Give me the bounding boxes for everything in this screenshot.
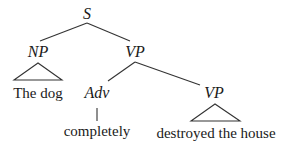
- yield-adv: completely: [64, 123, 131, 139]
- node-np: NP: [27, 43, 49, 60]
- yield-np: The dog: [13, 85, 63, 101]
- yield-vp2: destroyed the house: [156, 125, 275, 141]
- node-vp2: VP: [204, 84, 224, 101]
- edge-s-vp: [87, 23, 130, 41]
- triangle-np: [14, 63, 62, 80]
- syntax-tree: S NP The dog VP Adv completely VP destro…: [0, 0, 283, 146]
- triangle-vp2: [191, 104, 240, 121]
- edge-vp-vp2: [135, 62, 200, 85]
- edge-vp-adv: [108, 62, 135, 81]
- node-vp: VP: [125, 43, 145, 60]
- node-s: S: [83, 5, 91, 22]
- node-adv: Adv: [84, 84, 111, 101]
- edge-s-np: [40, 23, 87, 41]
